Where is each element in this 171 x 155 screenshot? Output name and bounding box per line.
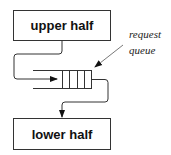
enqueue-arrow xyxy=(14,41,62,80)
lower-half-box: lower half xyxy=(14,119,111,150)
upper-half-box: upper half xyxy=(14,11,111,41)
annotation-pointer xyxy=(95,45,123,67)
lower-half-label: lower half xyxy=(32,127,93,142)
diagram-canvas: upper half lower half request queue xyxy=(0,0,171,155)
annotation-request: request xyxy=(129,28,162,40)
annotation-queue: queue xyxy=(129,44,155,56)
upper-half-label: upper half xyxy=(31,18,95,33)
